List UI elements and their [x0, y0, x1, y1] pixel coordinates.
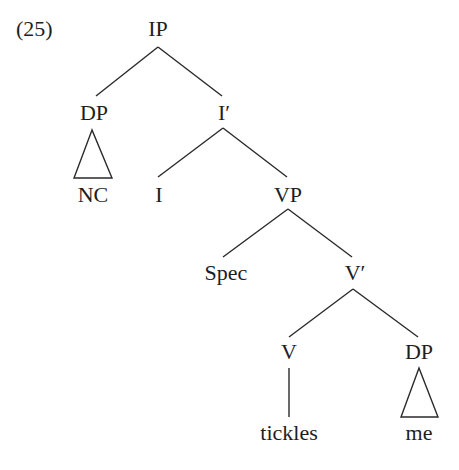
word-me: me [406, 422, 433, 444]
word-tickles: tickles [260, 422, 317, 444]
edge-ip-dp [96, 47, 158, 96]
edge-vp-spec [223, 209, 288, 257]
edge-ip-ibar [158, 47, 222, 96]
tree-edges [0, 0, 459, 470]
node-spec: Spec [205, 262, 248, 284]
triangle-dp-me [401, 368, 438, 417]
syntax-tree-diagram: (25) IP DP I′ NC I VP Spec V′ V DP tickl… [0, 0, 459, 470]
node-nc: NC [78, 184, 109, 206]
node-vbar: V′ [345, 262, 366, 284]
node-vp: VP [274, 184, 302, 206]
edge-vbar-dp [353, 289, 418, 337]
node-ip: IP [148, 18, 168, 40]
edge-vp-vbar [288, 209, 352, 257]
edge-ibar-i [158, 128, 223, 177]
edge-ibar-vp [223, 128, 287, 177]
node-i: I [155, 184, 162, 206]
node-dp-subject: DP [80, 102, 108, 124]
edge-vbar-v [289, 289, 353, 337]
node-dp-object: DP [405, 341, 433, 363]
example-number: (25) [16, 18, 53, 40]
node-ibar: I′ [218, 102, 230, 124]
node-v: V [281, 341, 297, 363]
triangle-dp-nc [74, 130, 112, 178]
